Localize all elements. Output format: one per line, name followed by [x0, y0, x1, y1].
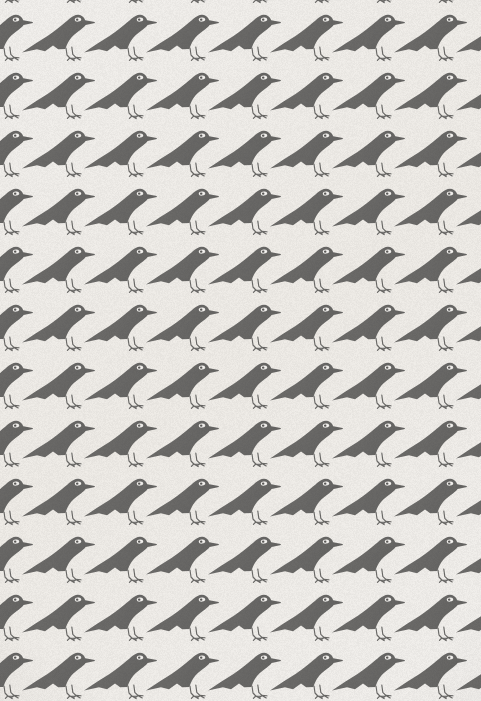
bird-pattern-canvas — [0, 0, 481, 701]
pattern-artwork — [0, 0, 481, 701]
